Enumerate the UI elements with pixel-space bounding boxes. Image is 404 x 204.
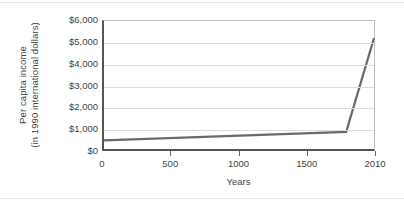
- x-axis-tick-label: 2010: [335, 158, 404, 169]
- gridline: [104, 130, 374, 131]
- y-axis-title-line-1: Per capita income: [17, 46, 29, 124]
- y-axis-tick-labels: $0$1,000$2,000$3,000$4,000$5,000$6,000: [44, 14, 98, 158]
- x-axis-tick-labels: 0500100015002010: [62, 158, 402, 172]
- y-axis-title-line-2: (in 1990 international dollars): [29, 22, 41, 148]
- page-rule-top: [0, 2, 404, 3]
- y-axis-tick-label: $6,000: [44, 15, 98, 25]
- x-axis-tick-mark: [239, 151, 240, 156]
- gridline: [104, 65, 374, 66]
- y-axis-tick-label: $5,000: [44, 37, 98, 47]
- y-axis-tick-label: $4,000: [44, 59, 98, 69]
- y-axis-tick-label: $2,000: [44, 102, 98, 112]
- chart-figure: Per capita income (in 1990 international…: [0, 0, 404, 204]
- x-axis-title: Years: [102, 176, 375, 187]
- plot-area: [102, 20, 375, 151]
- series-polyline: [104, 38, 374, 140]
- page-rule-bottom: [0, 198, 404, 199]
- x-axis-tick-mark: [307, 151, 308, 156]
- y-axis-tick-label: $3,000: [44, 81, 98, 91]
- x-axis-tick-mark: [170, 151, 171, 156]
- y-axis-tick-label: $1,000: [44, 124, 98, 134]
- gridline: [104, 87, 374, 88]
- y-axis-title: Per capita income (in 1990 international…: [13, 9, 45, 161]
- gridline: [104, 43, 374, 44]
- y-axis-tick-label: $0: [44, 146, 98, 156]
- gridline: [104, 108, 374, 109]
- x-axis-tick-mark: [375, 151, 376, 156]
- x-axis-tick-marks: [102, 151, 375, 157]
